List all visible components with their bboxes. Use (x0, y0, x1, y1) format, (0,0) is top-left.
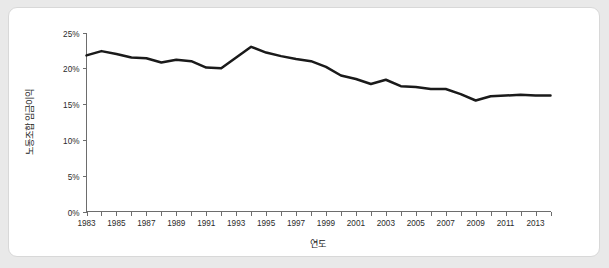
x-tick-label: 1999 (317, 219, 336, 228)
x-tick-label: 1985 (107, 219, 126, 228)
x-tick-label: 1995 (257, 219, 276, 228)
line-chart: 0%5%10%15%20%25% 19831985198719891991199… (9, 8, 600, 257)
x-tick-label: 2011 (497, 219, 515, 228)
y-axis-title: 노동조합 임금이익 (24, 89, 35, 156)
y-tick-label: 20% (63, 65, 79, 74)
x-tick-label: 1987 (137, 219, 156, 228)
y-tick-label: 25% (63, 30, 79, 39)
x-tick-label: 1997 (287, 219, 306, 228)
x-tick-label: 1993 (227, 219, 246, 228)
x-axis-tick-labels: 1983198519871989199119931995199719992001… (77, 219, 545, 228)
series-line-union-wage-premium (87, 47, 551, 101)
x-tick-label: 2005 (407, 219, 426, 228)
chart-card: 0%5%10%15%20%25% 19831985198719891991199… (8, 7, 600, 257)
y-axis-ticks (83, 34, 87, 213)
y-tick-label: 15% (63, 101, 79, 110)
x-tick-label: 2007 (437, 219, 456, 228)
chart-axes (87, 33, 551, 212)
y-tick-label: 10% (63, 137, 79, 146)
y-tick-label: 5% (68, 173, 80, 182)
x-tick-label: 1991 (197, 219, 216, 228)
x-tick-label: 1989 (167, 219, 186, 228)
x-tick-label: 2001 (347, 219, 366, 228)
x-axis-title: 연도 (310, 239, 326, 249)
y-axis-tick-labels: 0%5%10%15%20%25% (63, 30, 79, 218)
x-axis-ticks (88, 212, 552, 216)
x-tick-label: 1983 (77, 219, 96, 228)
y-tick-label: 0% (68, 209, 80, 218)
x-tick-label: 2009 (467, 219, 486, 228)
x-tick-label: 2013 (526, 219, 545, 228)
x-tick-label: 2003 (377, 219, 396, 228)
